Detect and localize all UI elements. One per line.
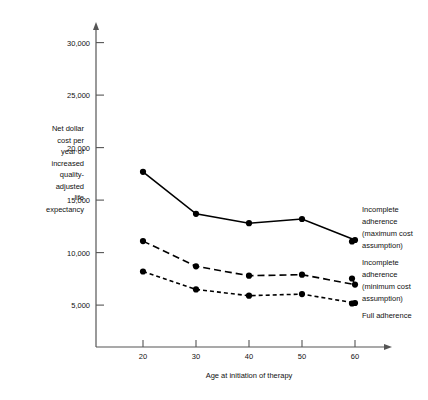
x-tick-marks [143,340,355,347]
annotation-full-adherence: Full adherence [362,311,412,320]
x-axis-arrowhead [384,344,392,350]
data-point [299,291,305,297]
series-incomplete-adherence-maximum-cost [140,169,358,245]
annotation-1-line-3: (minimum cost [362,282,412,291]
x-tick-labels: 20 30 40 50 60 [139,352,359,361]
series-markers-0 [140,169,358,243]
data-point [246,273,252,279]
data-point [246,293,252,299]
annotation-0-line-1: Incomplete [362,205,399,214]
annotation-incomplete-adherence-minimum-cost: Incomplete adherence (minimum cost assum… [362,258,412,303]
y-tick-label-10000: 10,000 [67,249,90,258]
annotation-1-line-1: Incomplete [362,258,399,267]
leader-endpoint-0 [349,238,355,244]
data-point [193,263,199,269]
y-axis-title-line-7: life [74,193,84,202]
x-tick-label-40: 40 [245,352,253,361]
annotation-0-line-2: adherence [362,217,397,226]
data-point [299,272,305,278]
annotation-1-line-4: assumption) [362,294,403,303]
y-tick-marks [96,43,104,306]
series-line-0 [143,172,355,240]
y-axis-title-line-3: year of [61,147,85,156]
y-axis-title-line-1: Net dollar [52,124,85,133]
x-tick-label-50: 50 [298,352,306,361]
data-point [140,268,146,274]
x-tick-label-30: 30 [192,352,200,361]
series-incomplete-adherence-minimum-cost [140,238,358,288]
leader-endpoint-2 [349,300,355,306]
annotation-incomplete-adherence-maximum-cost: Incomplete adherence (maximum cost assum… [362,205,414,250]
y-axis-title-line-6: adjusted [56,182,84,191]
annotation-2-line-1: Full adherence [362,311,412,320]
leader-endpoint-1 [349,275,355,281]
data-point [246,220,252,226]
data-point [140,169,146,175]
series-markers-1 [140,238,358,288]
x-axis-title: Age at initiation of therapy [206,371,293,380]
data-point [299,216,305,222]
y-axis-title-line-5: quality- [60,170,85,179]
data-point [193,211,199,217]
annotation-0-line-3: (maximum cost [362,229,414,238]
y-tick-label-30000: 30,000 [67,39,90,48]
data-point [193,286,199,292]
y-axis-arrowhead [93,22,99,30]
annotation-1-line-2: adherence [362,270,397,279]
data-point [140,238,146,244]
chart-container: 30,000 25,000 20,000 15,000 10,000 5,000… [0,0,428,400]
y-tick-label-5000: 5,000 [71,301,90,310]
axes [93,22,392,350]
x-tick-label-60: 60 [351,352,359,361]
x-tick-label-20: 20 [139,352,147,361]
y-axis-title-line-2: cost per [57,136,84,145]
line-chart: 30,000 25,000 20,000 15,000 10,000 5,000… [0,0,428,400]
y-axis-title-line-4: increased [51,159,84,168]
y-tick-label-25000: 25,000 [67,91,90,100]
y-axis-title-line-8: expectancy [46,205,84,214]
annotation-0-line-4: assumption) [362,241,403,250]
y-axis-title: Net dollar cost per year of increased qu… [46,124,85,214]
